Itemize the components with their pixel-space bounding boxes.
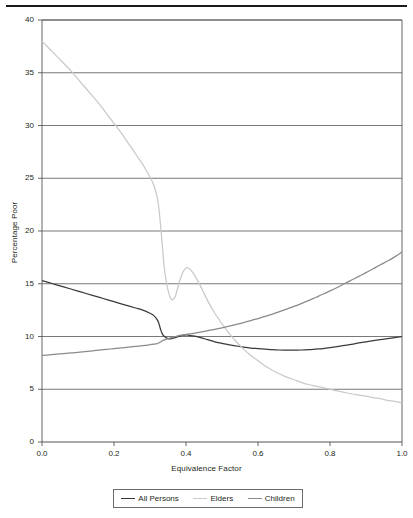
figure-container: Percentage Poor Equivalence Factor 05101… [0, 0, 413, 518]
x-tick-label: 0.2 [94, 449, 134, 458]
x-tick-label: 1.0 [382, 449, 413, 458]
series-line-children [42, 252, 402, 355]
legend-swatch-icon [248, 498, 262, 499]
legend-item-elders: Elders [193, 494, 233, 503]
legend-label: All Persons [138, 494, 178, 503]
series-line-elders [42, 41, 402, 403]
x-axis-title: Equivalence Factor [0, 464, 413, 473]
y-tick-label: 5 [4, 384, 34, 393]
y-tick-label: 35 [4, 68, 34, 77]
x-tick-label: 0.4 [166, 449, 206, 458]
y-tick-label: 25 [4, 173, 34, 182]
legend-item-children: Children [248, 494, 295, 503]
legend-item-all-persons: All Persons [121, 494, 178, 503]
legend-swatch-icon [193, 498, 207, 499]
y-tick-label: 20 [4, 226, 34, 235]
legend-label: Children [265, 494, 295, 503]
y-tick-label: 0 [4, 437, 34, 446]
chart-legend: All PersonsEldersChildren [113, 489, 303, 508]
y-tick-label: 30 [4, 121, 34, 130]
x-tick-label: 0.6 [238, 449, 278, 458]
y-tick-label: 15 [4, 279, 34, 288]
series-line-all-persons [42, 281, 402, 351]
x-tick-label: 0.0 [22, 449, 62, 458]
legend-swatch-icon [121, 498, 135, 499]
y-tick-label: 40 [4, 15, 34, 24]
legend-label: Elders [210, 494, 233, 503]
y-tick-label: 10 [4, 332, 34, 341]
line-chart [0, 0, 413, 518]
x-tick-label: 0.8 [310, 449, 350, 458]
